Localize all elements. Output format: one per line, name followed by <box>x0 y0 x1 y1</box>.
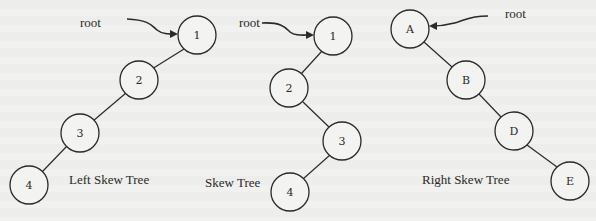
tree-node-3: 3 <box>323 122 361 160</box>
tree-node-E: E <box>551 162 589 200</box>
svg-text:4: 4 <box>26 179 33 192</box>
edge-1-2 <box>152 49 184 69</box>
svg-text:3: 3 <box>77 127 84 140</box>
tree-edges <box>42 49 184 172</box>
svg-text:B: B <box>462 74 470 87</box>
tree-node-B: B <box>447 61 485 99</box>
svg-text:2: 2 <box>286 82 293 95</box>
tree-caption: Right Skew Tree <box>422 172 510 187</box>
svg-text:2: 2 <box>136 74 143 87</box>
svg-text:E: E <box>566 175 574 188</box>
right-skew-tree: root A B D E Right Skew Tree <box>391 6 589 200</box>
tree-caption: Skew Tree <box>205 175 260 190</box>
root-pointer-arrow <box>431 16 488 26</box>
tree-node-3: 3 <box>61 114 99 152</box>
skew-tree-diagram: root 1 2 3 4 Left Skew Tree root 1 2 3 4… <box>0 0 596 221</box>
edge-2-3 <box>303 102 329 127</box>
root-pointer-arrow <box>262 23 312 35</box>
root-pointer-arrow <box>127 19 176 34</box>
edge-1-2 <box>301 51 322 74</box>
edge-A-B <box>424 42 452 67</box>
edge-3-4 <box>303 155 330 179</box>
tree-edges <box>424 42 557 167</box>
svg-text:3: 3 <box>339 135 346 148</box>
tree-edges <box>301 51 330 179</box>
tree-node-2: 2 <box>270 69 308 107</box>
svg-text:A: A <box>405 23 415 36</box>
svg-text:1: 1 <box>330 30 337 43</box>
tree-node-A: A <box>391 10 429 48</box>
svg-text:4: 4 <box>287 186 294 199</box>
tree-node-D: D <box>495 112 533 150</box>
diagram-canvas: root 1 2 3 4 Left Skew Tree root 1 2 3 4… <box>0 0 596 221</box>
tree-node-1: 1 <box>314 17 352 55</box>
tree-caption: Left Skew Tree <box>69 172 149 187</box>
left-skew-tree: root 1 2 3 4 Left Skew Tree <box>10 15 216 204</box>
tree-node-1: 1 <box>178 16 216 54</box>
root-label: root <box>239 15 260 30</box>
svg-text:1: 1 <box>194 29 201 42</box>
edge-2-3 <box>93 93 126 121</box>
tree-node-2: 2 <box>120 61 158 99</box>
root-label: root <box>80 15 101 30</box>
edge-D-E <box>527 145 557 167</box>
tree-node-4: 4 <box>10 166 48 204</box>
root-label: root <box>505 6 526 21</box>
svg-text:D: D <box>510 125 519 138</box>
tree-node-4: 4 <box>271 173 309 211</box>
edge-B-D <box>479 94 501 117</box>
edge-3-4 <box>42 146 67 172</box>
skew-tree: root 1 2 3 4 Skew Tree <box>205 15 361 211</box>
